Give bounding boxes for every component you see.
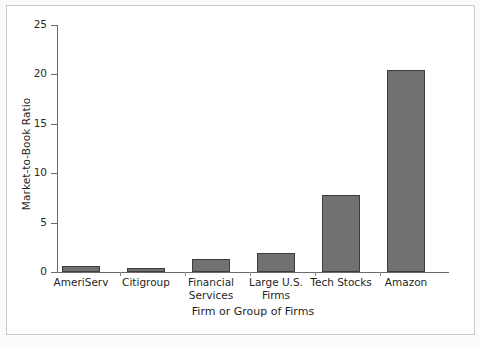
y-tick-25 xyxy=(51,25,57,26)
bar-chart-plot-area: 0 5 10 15 20 25 xyxy=(0,0,481,347)
figure-card: 0 5 10 15 20 25 xyxy=(0,0,481,347)
y-tick-label-0: 0 xyxy=(21,266,47,277)
y-tick-20 xyxy=(51,74,57,75)
x-axis-line xyxy=(57,272,449,273)
y-tick-5 xyxy=(51,223,57,224)
bar-financial-services[interactable] xyxy=(192,259,230,272)
category-label-large-us-firms: Large U.S. Firms xyxy=(241,276,311,301)
category-label-amazon: Amazon xyxy=(371,276,441,289)
y-tick-label-0-wrap: 0 xyxy=(17,266,47,278)
bar-large-us-firms[interactable] xyxy=(257,253,295,272)
bar-citigroup[interactable] xyxy=(127,268,165,272)
y-axis-title: Market-to-Book Ratio xyxy=(20,64,32,244)
y-tick-0 xyxy=(51,272,57,273)
bar-amazon[interactable] xyxy=(387,70,425,273)
bar-ameriserv[interactable] xyxy=(62,266,100,272)
y-tick-label-25-wrap: 25 xyxy=(17,19,47,31)
y-tick-10 xyxy=(51,173,57,174)
category-label-financial-services: Financial Services xyxy=(176,276,246,301)
y-tick-15 xyxy=(51,124,57,125)
y-tick-label-25: 25 xyxy=(21,19,47,30)
x-axis-title: Firm or Group of Firms xyxy=(57,305,449,318)
category-label-ameriserv: AmeriServ xyxy=(46,276,116,289)
bar-tech-stocks[interactable] xyxy=(322,195,360,272)
category-label-tech-stocks: Tech Stocks xyxy=(306,276,376,289)
y-axis-line xyxy=(57,25,58,273)
category-label-citigroup: Citigroup xyxy=(111,276,181,289)
